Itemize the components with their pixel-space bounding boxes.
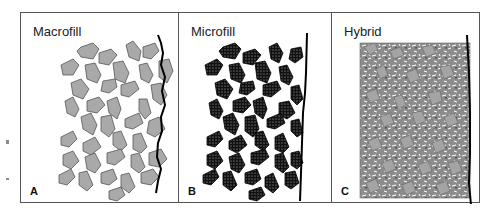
composite-filler-figure: Macrofill A [20,12,480,203]
panel-title-macrofill: Macrofill [33,24,81,39]
panel-microfill: Microfill B [178,13,331,202]
microfill-particles-illustration [179,13,332,204]
panel-label-b: B [188,185,196,197]
panel-title-hybrid: Hybrid [344,24,382,39]
panel-title-microfill: Microfill [191,24,235,39]
panel-macrofill: Macrofill A [21,13,178,202]
panel-hybrid: Hybrid C [331,13,481,202]
panel-label-a: A [30,185,38,197]
panel-label-c: C [341,185,349,197]
margin-artifact [6,178,9,180]
hybrid-particles-illustration [332,13,482,204]
margin-artifact [6,140,9,144]
macrofill-particles-illustration [21,13,178,204]
